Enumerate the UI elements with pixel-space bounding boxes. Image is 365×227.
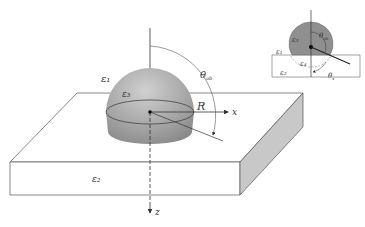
diagram-canvas: ε₁ ε₃ ε₂ R x z θob ε₃ ε₁ ε₄ ε₂ θob θs xyxy=(0,0,365,227)
inset-label-eps2: ε₂ xyxy=(280,69,287,77)
diagram-svg: ε₁ ε₃ ε₂ R x z θob ε₃ ε₁ ε₄ ε₂ θob θs xyxy=(0,0,365,227)
label-eps3: ε₃ xyxy=(122,89,131,99)
label-x-axis: x xyxy=(232,107,237,117)
label-theta-ob: θob xyxy=(200,69,212,81)
inset-label-eps1: ε₁ xyxy=(276,48,283,56)
inset-label-eps3: ε₃ xyxy=(292,36,299,44)
label-radius: R xyxy=(196,100,205,113)
label-eps2: ε₂ xyxy=(92,174,101,184)
label-eps1: ε₁ xyxy=(101,73,110,84)
inset-label-eps4: ε₄ xyxy=(300,60,307,68)
inset-diagram: ε₃ ε₁ ε₄ ε₂ θob θs xyxy=(272,10,360,81)
label-z-axis: z xyxy=(154,207,160,217)
